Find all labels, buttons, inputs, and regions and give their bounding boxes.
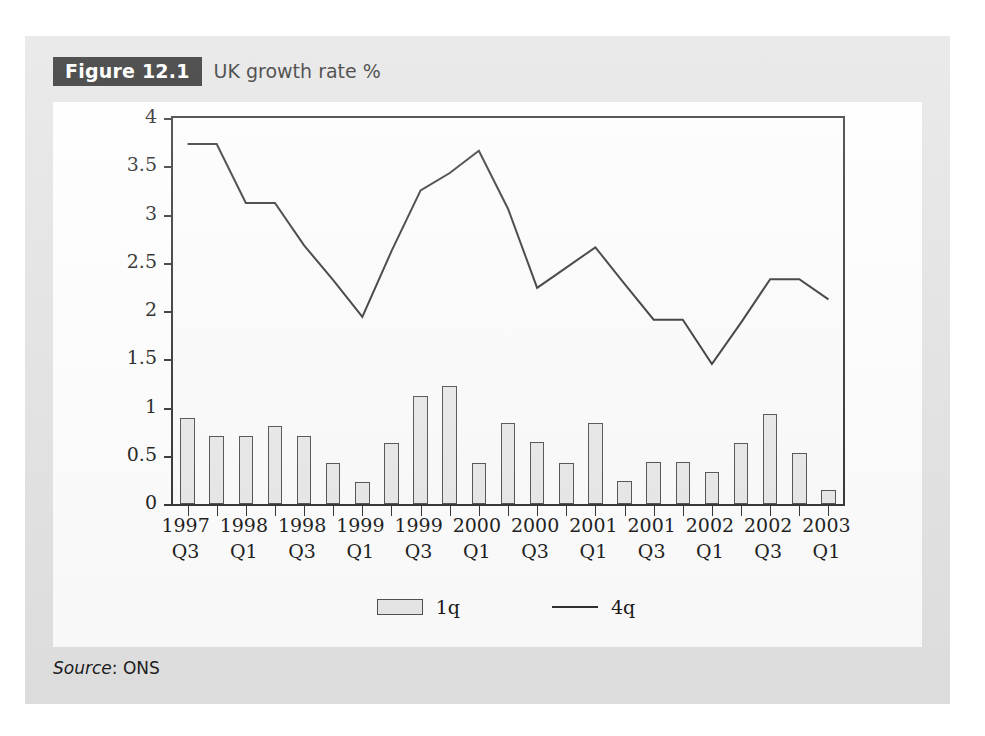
y-tick-label: 2.5 [127, 250, 157, 272]
source-note: Source: ONS [53, 658, 160, 678]
chart-legend: 1q 4q [171, 590, 841, 624]
plot-area [171, 116, 845, 506]
source-value: : ONS [112, 658, 160, 678]
x-tick-label: 1999Q1 [336, 512, 384, 564]
x-axis-labels: 1997Q31998Q11998Q31999Q11999Q32000Q12000… [171, 512, 841, 582]
y-tick-label: 3 [145, 202, 157, 224]
figure-block: Figure 12.1 UK growth rate % 00.511.522.… [25, 36, 950, 704]
y-tick-label: 4 [145, 105, 157, 127]
x-tick-label: 2002Q3 [744, 512, 792, 564]
figure-title: UK growth rate % [214, 60, 381, 82]
figure-page: Figure 12.1 UK growth rate % 00.511.522.… [0, 0, 985, 736]
x-tick-label: 1998Q1 [220, 512, 268, 564]
figure-number-tag: Figure 12.1 [53, 57, 202, 86]
y-tick-mark [164, 166, 173, 168]
y-tick-mark [164, 118, 173, 120]
y-tick-mark [164, 359, 173, 361]
source-label: Source [53, 658, 112, 678]
y-tick-label: 1 [145, 395, 157, 417]
x-tick-label: 1997Q3 [161, 512, 209, 564]
chart-panel: 00.511.522.533.54 1997Q31998Q11998Q31999… [53, 102, 922, 647]
line-series-4q [173, 118, 843, 504]
y-tick-mark [164, 456, 173, 458]
x-tick-label: 2000Q3 [511, 512, 559, 564]
x-tick-label: 2002Q1 [686, 512, 734, 564]
y-tick-mark [164, 504, 173, 506]
y-axis-labels: 00.511.522.533.54 [53, 102, 171, 647]
y-tick-label: 0.5 [127, 443, 157, 465]
legend-line-swatch-icon [552, 606, 598, 608]
x-tick-label: 2000Q1 [453, 512, 501, 564]
x-tick-label: 1999Q3 [394, 512, 442, 564]
y-tick-mark [164, 263, 173, 265]
y-tick-label: 0 [145, 491, 157, 513]
figure-caption: Figure 12.1 UK growth rate % [53, 54, 381, 88]
legend-label-1q: 1q [436, 596, 460, 618]
y-tick-mark [164, 215, 173, 217]
x-tick-label: 2001Q1 [569, 512, 617, 564]
y-tick-mark [164, 408, 173, 410]
y-tick-label: 2 [145, 298, 157, 320]
y-tick-label: 1.5 [127, 346, 157, 368]
x-tick-label: 1998Q3 [278, 512, 326, 564]
legend-bar-swatch-icon [377, 599, 423, 615]
y-tick-label: 3.5 [127, 153, 157, 175]
legend-item-1q: 1q [377, 596, 460, 618]
x-tick-label: 2003Q1 [802, 512, 850, 564]
x-tick-label: 2001Q3 [627, 512, 675, 564]
legend-item-4q: 4q [552, 596, 635, 618]
y-tick-mark [164, 311, 173, 313]
legend-label-4q: 4q [611, 596, 635, 618]
chart-plot-wrapper: 00.511.522.533.54 1997Q31998Q11998Q31999… [53, 102, 922, 647]
